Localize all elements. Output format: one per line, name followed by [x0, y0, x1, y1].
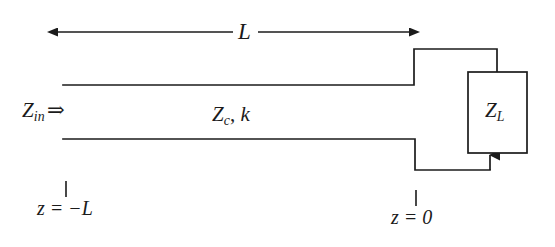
load-impedance-label: ZL: [485, 100, 505, 124]
length-label: L: [238, 20, 251, 43]
characteristic-impedance-symbol: Z: [212, 102, 224, 126]
load-impedance-symbol: Z: [485, 98, 497, 122]
line-parameters-label: Zc, k: [212, 104, 250, 128]
input-impedance-label: Zin⇒: [22, 100, 63, 124]
lower-conductor-path: [63, 139, 490, 170]
position-label-left: z = −L: [37, 198, 93, 218]
input-impedance-symbol: Z: [22, 98, 34, 122]
parameter-separator: ,: [230, 102, 241, 126]
transmission-line-figure: L Zin⇒ Zc, k ZL z = −L z = 0: [0, 0, 555, 247]
upper-conductor-path: [63, 49, 497, 85]
position-label-right: z = 0: [391, 207, 432, 227]
input-impedance-subscript: in: [34, 109, 45, 124]
wavenumber-symbol: k: [241, 102, 250, 126]
length-symbol: L: [238, 19, 251, 44]
load-impedance-subscript: L: [497, 109, 505, 124]
double-arrow-icon: ⇒: [47, 98, 64, 122]
